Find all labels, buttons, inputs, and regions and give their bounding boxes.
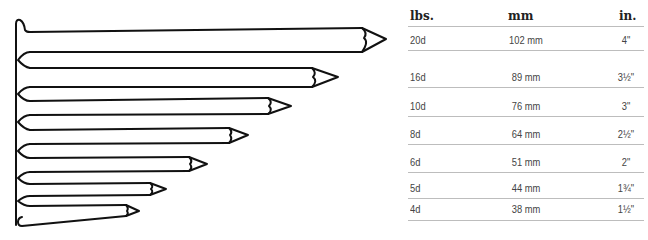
cell-in: 3" bbox=[609, 100, 643, 112]
cell-mm: 64 mm bbox=[501, 128, 552, 140]
cell-lbs: 4d bbox=[410, 203, 420, 215]
nail-5d-icon bbox=[18, 183, 166, 206]
row-divider bbox=[408, 198, 644, 199]
cell-mm: 44 mm bbox=[501, 182, 552, 194]
row-divider bbox=[408, 144, 644, 145]
cell-mm: 38 mm bbox=[501, 203, 552, 215]
row-divider bbox=[408, 220, 644, 221]
row-divider bbox=[408, 116, 644, 117]
cell-in: 3½" bbox=[609, 71, 643, 83]
row-divider bbox=[408, 87, 644, 88]
cell-lbs: 10d bbox=[410, 100, 426, 112]
cell-lbs: 8d bbox=[410, 128, 420, 140]
cell-mm: 102 mm bbox=[501, 34, 552, 46]
cell-in: 2" bbox=[609, 156, 643, 168]
nail-size-illustration bbox=[0, 0, 400, 240]
row-divider bbox=[408, 172, 644, 173]
cell-lbs: 20d bbox=[410, 34, 426, 46]
cell-mm: 51 mm bbox=[501, 156, 552, 168]
header-divider bbox=[408, 26, 644, 27]
cell-in: 2½" bbox=[609, 128, 643, 140]
cell-in: 1½" bbox=[609, 203, 643, 215]
cell-lbs: 16d bbox=[410, 71, 426, 83]
cell-mm: 89 mm bbox=[501, 71, 552, 83]
cell-lbs: 5d bbox=[410, 182, 420, 194]
nail-10d-icon bbox=[18, 98, 291, 130]
nail-20d-icon bbox=[16, 20, 386, 68]
nail-4d-icon bbox=[18, 205, 139, 226]
cell-mm: 76 mm bbox=[501, 100, 552, 112]
nail-6d-icon bbox=[18, 157, 207, 184]
cell-in: 1¾" bbox=[609, 182, 643, 194]
row-divider bbox=[408, 50, 644, 51]
nail-16d-icon bbox=[16, 58, 338, 225]
nail-8d-icon bbox=[18, 128, 248, 158]
cell-in: 4" bbox=[609, 34, 643, 46]
cell-lbs: 6d bbox=[410, 156, 420, 168]
